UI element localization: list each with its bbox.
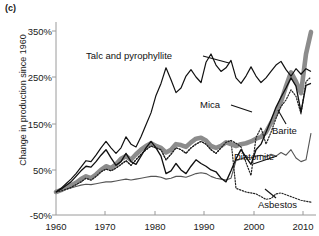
annotation-mica: Mica	[200, 99, 220, 110]
series-line-diatomite	[56, 133, 311, 192]
annotation-diatomite: Diatomite	[234, 151, 274, 162]
annotation-asbestos: Asbestos	[258, 199, 297, 210]
annotation-talc-and-pyrophyllite: Talc and pyrophyllite	[86, 50, 172, 61]
annotation-barite: Barite	[272, 125, 297, 136]
figure-panel-c: (c) Change in production since 1960 350%…	[0, 0, 319, 236]
